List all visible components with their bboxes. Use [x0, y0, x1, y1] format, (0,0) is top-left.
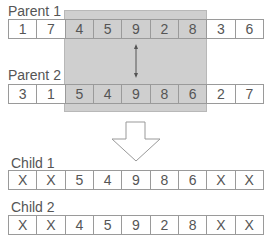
gene-cell: X — [207, 216, 235, 234]
gene-cell: X — [236, 171, 263, 189]
gene-cell: 9 — [122, 216, 150, 234]
gene-cell: 8 — [179, 216, 207, 234]
gene-cell: 4 — [94, 171, 122, 189]
gene-cell: X — [37, 171, 65, 189]
gene-cell: X — [37, 216, 65, 234]
gene-cell: 8 — [151, 171, 179, 189]
gene-cell: 5 — [66, 171, 94, 189]
child1-label: Child 1 — [11, 156, 55, 170]
child2-label: Child 2 — [11, 200, 55, 214]
gene-cell: 6 — [179, 171, 207, 189]
gene-cell: X — [236, 216, 263, 234]
gene-cell: 5 — [94, 216, 122, 234]
gene-cell: X — [9, 171, 37, 189]
child2-chromosome: X X 4 5 9 2 8 X X — [8, 215, 264, 235]
gene-cell: X — [9, 216, 37, 234]
child1-chromosome: X X 5 4 9 8 6 X X — [8, 170, 264, 190]
gene-cell: 2 — [151, 216, 179, 234]
gene-cell: X — [207, 171, 235, 189]
gene-cell: 9 — [122, 171, 150, 189]
gene-cell: 4 — [66, 216, 94, 234]
